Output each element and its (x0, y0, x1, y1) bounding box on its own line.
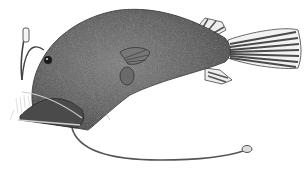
barbel-filament (72, 128, 252, 160)
anglerfish-drawing (0, 0, 308, 170)
caudal-fin (228, 29, 301, 69)
eye (44, 56, 52, 64)
anglerfish-illustration: Anglerfish illustration (0, 0, 308, 170)
anal-fin (205, 68, 232, 84)
